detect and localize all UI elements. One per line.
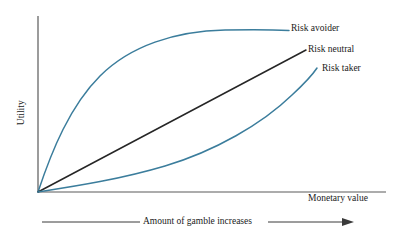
series-label-risk-avoider: Risk avoider xyxy=(291,24,339,34)
curve-risk-avoider xyxy=(38,30,289,192)
gamble-annotation-label: Amount of gamble increases xyxy=(143,217,252,227)
series-label-risk-neutral: Risk neutral xyxy=(308,45,354,55)
utility-risk-attitude-chart: Risk avoider Risk neutral Risk taker Mon… xyxy=(0,0,397,246)
curve-risk-taker xyxy=(38,68,317,192)
gamble-note-arrow-icon xyxy=(342,218,354,226)
curve-risk-neutral xyxy=(38,50,306,192)
y-axis-label: Utility xyxy=(17,83,27,143)
x-axis-label: Monetary value xyxy=(308,194,368,204)
series-label-risk-taker: Risk taker xyxy=(322,64,361,74)
chart-canvas xyxy=(0,0,397,246)
